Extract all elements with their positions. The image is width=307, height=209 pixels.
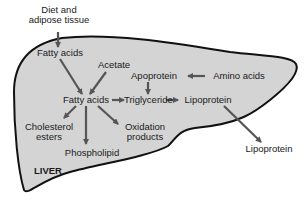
label-fatty-acids-uptake: Fatty acids bbox=[34, 48, 86, 58]
label-cholesterol-line2: esters bbox=[22, 132, 76, 142]
label-liver: LIVER bbox=[34, 166, 74, 176]
label-diet: Diet and adipose tissue bbox=[26, 5, 92, 25]
label-amino-acids: Amino acids bbox=[208, 71, 270, 81]
label-triglyceride: Triglyceride bbox=[124, 95, 168, 105]
label-oxidation-products: Oxidation products bbox=[118, 122, 172, 142]
label-lipoprotein-liver: Lipoprotein bbox=[180, 95, 236, 105]
label-fatty-acids: Fatty acids bbox=[60, 95, 112, 105]
label-phospholipid: Phospholipid bbox=[60, 148, 124, 158]
label-diet-line2: adipose tissue bbox=[26, 15, 92, 25]
label-lipoprotein-secreted: Lipoprotein bbox=[236, 144, 302, 154]
label-acetate: Acetate bbox=[94, 60, 134, 70]
label-apoprotein: Apoprotein bbox=[124, 71, 184, 81]
label-cholesterol-esters: Cholesterol esters bbox=[22, 122, 76, 142]
label-oxidation-line2: products bbox=[118, 132, 172, 142]
